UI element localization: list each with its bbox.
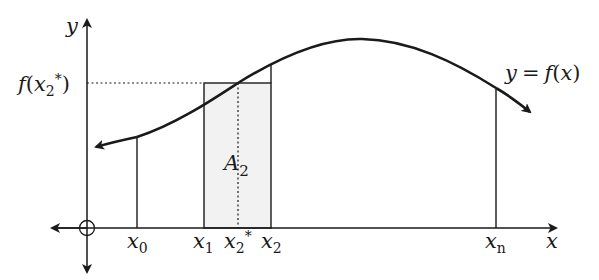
- function-curve: [137, 39, 496, 137]
- tick-label-x0: x0: [127, 229, 148, 256]
- fx2star-label: f(x2*): [16, 71, 70, 99]
- function-curve-right-tail: [496, 88, 530, 112]
- y-axis-label: y: [65, 14, 79, 38]
- tick-label-x2-star: x2*: [224, 228, 252, 256]
- tick-label-xn: xn: [485, 229, 506, 256]
- curve-label: y=f(x): [504, 61, 581, 85]
- tick-label-x2: x2: [261, 229, 282, 256]
- riemann-sum-diagram: y x f(x2*) y=f(x) A2 x0 x1 x2* x2 xn: [0, 0, 599, 280]
- function-curve-left-tail: [96, 137, 137, 147]
- diagram-canvas: y x f(x2*) y=f(x) A2 x0 x1 x2* x2 xn: [0, 0, 599, 280]
- x-axis-label: x: [546, 229, 558, 253]
- tick-label-x1: x1: [193, 229, 214, 256]
